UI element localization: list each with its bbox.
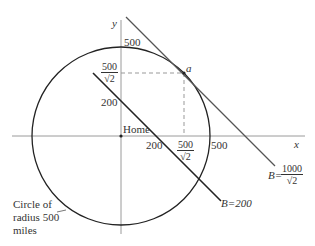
tick-y-200: 200 xyxy=(101,97,118,108)
circle-caption-line2: radius 500 xyxy=(13,212,59,223)
point-a-label: a xyxy=(186,63,192,74)
tick-x-500: 500 xyxy=(211,140,228,151)
tick-y-500: 500 xyxy=(124,37,141,48)
circle-caption-line3: miles xyxy=(13,225,37,236)
home-label: Home xyxy=(123,124,150,135)
y-axis-label: y xyxy=(112,18,117,29)
tick-y-500-over-sqrt2: 500 √2 xyxy=(101,62,118,84)
tick-x-500-over-sqrt2: 500 √2 xyxy=(177,140,194,162)
line-b1000-fraction: 1000 √2 xyxy=(281,164,303,186)
circle-caption-line1: Circle of xyxy=(13,199,52,210)
x-axis-label: x xyxy=(294,139,299,150)
tick-x-200: 200 xyxy=(146,140,163,151)
line-b200-label: B=200 xyxy=(221,198,252,209)
